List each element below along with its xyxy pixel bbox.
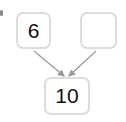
arrow-right	[69, 51, 96, 76]
arrow-left	[34, 51, 64, 76]
whole-value: 10	[55, 84, 78, 108]
part-box-left: 6	[16, 12, 51, 49]
part-box-right-empty[interactable]	[80, 12, 117, 49]
whole-box: 10	[44, 77, 90, 115]
part-value-left: 6	[28, 19, 40, 43]
